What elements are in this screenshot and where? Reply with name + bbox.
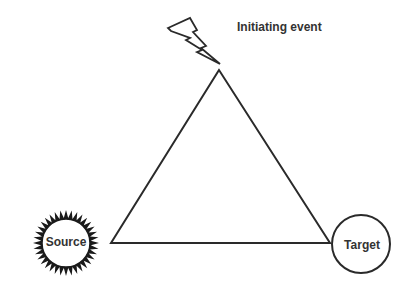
target-label: Target xyxy=(338,238,386,252)
diagram-canvas xyxy=(0,0,418,299)
source-label: Source xyxy=(41,235,91,249)
initiating-event-label: Initiating event xyxy=(237,20,322,34)
lightning-bolt-icon xyxy=(168,18,220,64)
relationship-triangle xyxy=(111,70,330,243)
